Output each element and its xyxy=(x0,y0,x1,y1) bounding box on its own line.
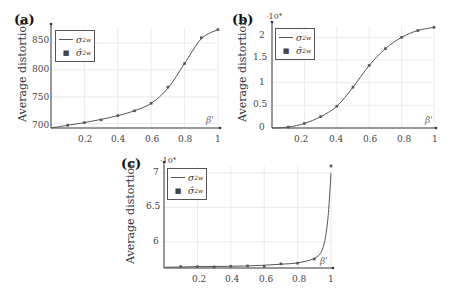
xtick-c-0: 0.2 xyxy=(192,274,206,284)
ytick-c-2: 7 xyxy=(153,167,159,177)
legend-c: σ2w ■σ̂2w xyxy=(167,168,207,200)
legend-entry-line: σ2w xyxy=(171,171,203,184)
legend-entry-marker: ■σ̂2w xyxy=(171,184,203,197)
xtick-c-1: 0.4 xyxy=(225,274,239,284)
y-axis-label-c: Average distortion xyxy=(124,161,137,264)
xtick-c-3: 0.8 xyxy=(292,274,306,284)
ytick-c-0: 6 xyxy=(153,236,159,246)
x-axis-label-c: β' xyxy=(320,256,328,266)
xtick-c-4: 1 xyxy=(328,274,334,284)
square-marker-icon: ■ xyxy=(171,187,185,195)
panel-c: (c) ·10⁴ Average distortion 6 6.5 7 0.2 … xyxy=(0,0,449,294)
xtick-c-2: 0.6 xyxy=(259,274,273,284)
line-swatch-icon xyxy=(171,177,185,178)
ytick-c-1: 6.5 xyxy=(146,201,160,211)
y-exponent-c: ·10⁴ xyxy=(160,156,176,165)
plot-c xyxy=(0,0,449,294)
